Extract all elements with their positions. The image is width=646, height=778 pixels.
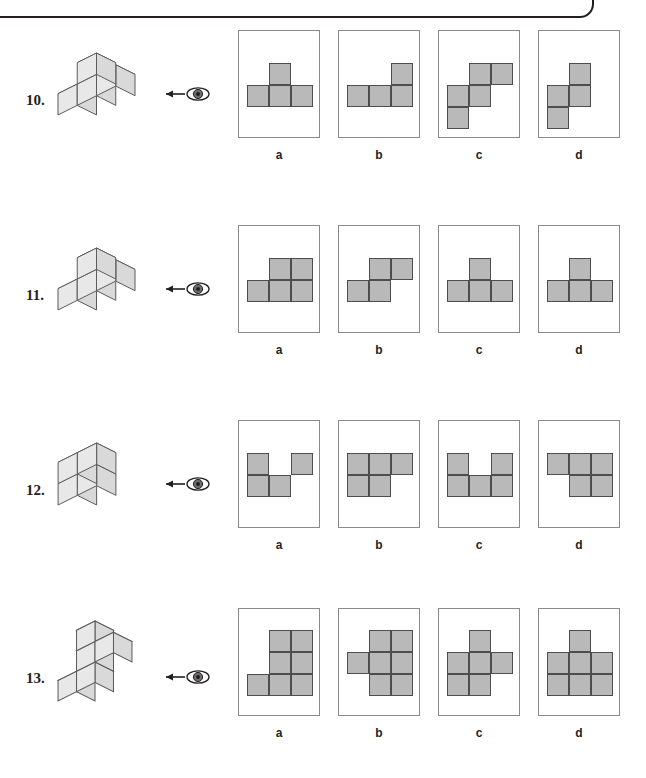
- shape-cell: [269, 652, 291, 674]
- shape-cell: [447, 652, 469, 674]
- shape-cell: [491, 280, 513, 302]
- question-number: 11.: [26, 287, 44, 304]
- shape-cell: [547, 674, 569, 696]
- question-number: 12.: [26, 482, 45, 499]
- answer-option[interactable]: c: [438, 225, 520, 363]
- shape-cell: [469, 280, 491, 302]
- option-frame[interactable]: [238, 30, 320, 138]
- shape-cell: [569, 63, 591, 85]
- shape-cell: [391, 258, 413, 280]
- answer-option[interactable]: a: [238, 225, 320, 363]
- answer-option[interactable]: c: [438, 420, 520, 558]
- answer-option[interactable]: d: [538, 608, 620, 746]
- shape-cell: [291, 630, 313, 652]
- viewpoint-eye-icon: [165, 475, 211, 493]
- answer-option[interactable]: d: [538, 225, 620, 363]
- answer-option[interactable]: d: [538, 30, 620, 168]
- option-letter-label: d: [538, 538, 620, 552]
- shape-cell: [547, 280, 569, 302]
- option-frame[interactable]: [338, 225, 420, 333]
- shape-cell: [591, 652, 613, 674]
- shape-cell: [247, 85, 269, 107]
- shape-cell: [569, 475, 591, 497]
- question-row: 13.abcd: [0, 608, 646, 758]
- option-letter-label: c: [438, 148, 520, 162]
- shape-cell: [569, 652, 591, 674]
- option-frame[interactable]: [438, 420, 520, 528]
- cube-stack-figure: [55, 50, 138, 118]
- option-frame[interactable]: [538, 608, 620, 716]
- answer-option[interactable]: d: [538, 420, 620, 558]
- shape-cell: [247, 475, 269, 497]
- shape-cell: [569, 674, 591, 696]
- shape-cell: [569, 85, 591, 107]
- option-frame[interactable]: [238, 608, 320, 716]
- shape-cell: [347, 280, 369, 302]
- shape-cell: [569, 280, 591, 302]
- shape-cell: [269, 280, 291, 302]
- shape-cell: [269, 258, 291, 280]
- shape-cell: [347, 475, 369, 497]
- shape-cell: [291, 674, 313, 696]
- shape-cell: [591, 674, 613, 696]
- option-frame[interactable]: [338, 420, 420, 528]
- option-frame[interactable]: [438, 225, 520, 333]
- shape-cell: [469, 674, 491, 696]
- shape-cell: [469, 630, 491, 652]
- shape-cell: [347, 652, 369, 674]
- option-frame[interactable]: [438, 608, 520, 716]
- shape-cell: [369, 630, 391, 652]
- option-letter-label: c: [438, 538, 520, 552]
- shape-cell: [347, 453, 369, 475]
- option-letter-label: a: [238, 148, 320, 162]
- option-letter-label: b: [338, 148, 420, 162]
- shape-cell: [269, 674, 291, 696]
- shape-cell: [547, 453, 569, 475]
- shape-cell: [469, 475, 491, 497]
- option-frame[interactable]: [238, 420, 320, 528]
- shape-cell: [269, 630, 291, 652]
- option-frame[interactable]: [238, 225, 320, 333]
- page-border-fragment: [0, 0, 594, 18]
- shape-cell: [447, 85, 469, 107]
- option-frame[interactable]: [538, 225, 620, 333]
- answer-option[interactable]: b: [338, 30, 420, 168]
- answer-option[interactable]: c: [438, 30, 520, 168]
- option-frame[interactable]: [338, 608, 420, 716]
- shape-cell: [491, 453, 513, 475]
- answer-option[interactable]: b: [338, 608, 420, 746]
- shape-cell: [491, 475, 513, 497]
- shape-cell: [469, 258, 491, 280]
- answer-option[interactable]: a: [238, 30, 320, 168]
- cube-stack-figure: [55, 618, 135, 704]
- option-frame[interactable]: [438, 30, 520, 138]
- option-letter-label: d: [538, 148, 620, 162]
- shape-cell: [369, 652, 391, 674]
- answer-option[interactable]: c: [438, 608, 520, 746]
- shape-cell: [291, 258, 313, 280]
- shape-cell: [291, 85, 313, 107]
- shape-cell: [247, 453, 269, 475]
- shape-cell: [391, 63, 413, 85]
- shape-cell: [369, 85, 391, 107]
- shape-cell: [491, 63, 513, 85]
- answer-option[interactable]: b: [338, 225, 420, 363]
- shape-cell: [469, 652, 491, 674]
- answer-option[interactable]: b: [338, 420, 420, 558]
- option-letter-label: b: [338, 726, 420, 740]
- viewpoint-eye-icon: [165, 85, 211, 103]
- shape-cell: [369, 258, 391, 280]
- shape-cell: [369, 280, 391, 302]
- shape-cell: [447, 475, 469, 497]
- shape-cell: [569, 453, 591, 475]
- answer-option[interactable]: a: [238, 420, 320, 558]
- option-frame[interactable]: [538, 30, 620, 138]
- shape-cell: [591, 280, 613, 302]
- option-letter-label: a: [238, 726, 320, 740]
- question-row: 12.abcd: [0, 420, 646, 560]
- answer-option[interactable]: a: [238, 608, 320, 746]
- shape-cell: [547, 85, 569, 107]
- option-frame[interactable]: [538, 420, 620, 528]
- shape-cell: [291, 652, 313, 674]
- option-frame[interactable]: [338, 30, 420, 138]
